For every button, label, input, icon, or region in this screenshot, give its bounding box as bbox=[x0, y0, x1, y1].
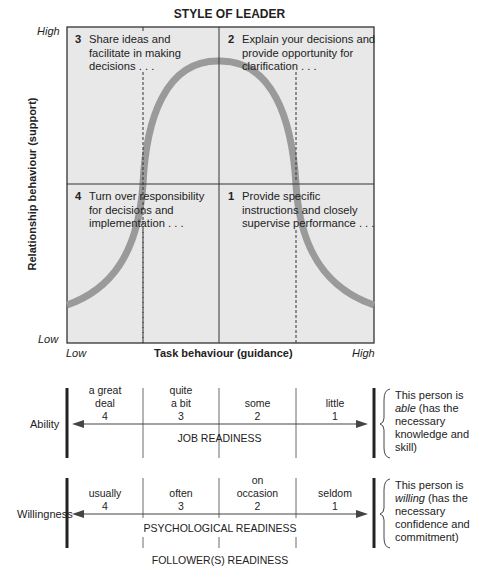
y-low-label: Low bbox=[38, 333, 58, 345]
willingness-note: This person is willing (has the necessar… bbox=[395, 479, 470, 544]
ability-label: Ability bbox=[30, 418, 59, 430]
y-axis-label: Relationship behaviour (support) bbox=[26, 84, 38, 284]
x-axis-label: Task behaviour (guidance) bbox=[154, 347, 293, 359]
ability-level-2: some2 bbox=[219, 397, 296, 423]
willingness-label: Willingness bbox=[17, 508, 73, 520]
willingness-level-4: usually4 bbox=[67, 487, 143, 513]
x-low-label: Low bbox=[66, 347, 86, 359]
x-high-label: High bbox=[352, 347, 375, 359]
ability-level-1: little1 bbox=[296, 397, 374, 423]
willingness-level-3: often3 bbox=[143, 487, 219, 513]
follower-readiness-label: FOLLOWER(S) READINESS bbox=[100, 554, 340, 567]
ability-level-3: quitea bit3 bbox=[143, 384, 219, 423]
psychological-readiness-label: PSYCHOLOGICAL READINESS bbox=[100, 522, 340, 535]
ability-level-4: a greatdeal4 bbox=[67, 384, 143, 423]
willingness-level-2: onoccasion2 bbox=[219, 474, 296, 513]
willingness-level-1: seldom1 bbox=[296, 487, 374, 513]
y-high-label: High bbox=[37, 25, 60, 37]
job-readiness-label: JOB READINESS bbox=[143, 432, 296, 445]
ability-note: This person is able (has the necessarykn… bbox=[395, 389, 469, 454]
diagram-title: STYLE OF LEADER bbox=[0, 7, 479, 21]
quadrant-grid bbox=[67, 27, 374, 343]
